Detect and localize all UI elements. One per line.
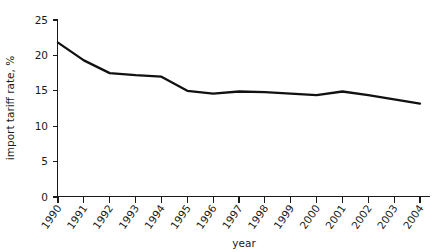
- y-tick-label: 25: [35, 14, 48, 26]
- x-axis-title: year: [232, 237, 256, 249]
- y-axis-title: import tariff rate, %: [4, 56, 16, 160]
- x-tick-label: 1998: [245, 202, 270, 231]
- x-tick-label: 2000: [297, 202, 322, 231]
- x-tick-label: 1990: [38, 202, 63, 231]
- x-tick-label: 1992: [90, 202, 115, 231]
- x-tick-label: 1997: [219, 202, 244, 231]
- line-chart: 0510152025 19901991199219931994199519961…: [0, 0, 440, 252]
- chart-container: 0510152025 19901991199219931994199519961…: [0, 0, 440, 252]
- y-tick-label: 5: [41, 155, 48, 167]
- x-tick-label: 1993: [116, 202, 141, 231]
- y-tick-label: 15: [35, 84, 48, 96]
- x-tick-label: 2001: [323, 202, 348, 231]
- y-tick-label: 10: [35, 120, 48, 132]
- y-axis-tick-labels: 0510152025: [35, 14, 48, 203]
- data-series-line: [58, 43, 420, 104]
- x-tick-label: 2003: [375, 202, 400, 231]
- y-tick-label: 0: [41, 191, 48, 203]
- x-tick-label: 1995: [168, 202, 193, 231]
- x-axis-ticks: [58, 197, 420, 203]
- x-axis-tick-labels: 1990199119921993199419951996199719981999…: [38, 202, 425, 231]
- y-axis-ticks: [53, 20, 58, 197]
- y-tick-label: 20: [35, 49, 48, 61]
- x-tick-label: 2004: [400, 202, 425, 231]
- x-tick-label: 1991: [64, 202, 89, 231]
- x-tick-label: 2002: [349, 202, 374, 231]
- x-tick-label: 1996: [194, 202, 219, 231]
- x-tick-label: 1999: [271, 202, 296, 231]
- x-tick-label: 1994: [142, 202, 167, 231]
